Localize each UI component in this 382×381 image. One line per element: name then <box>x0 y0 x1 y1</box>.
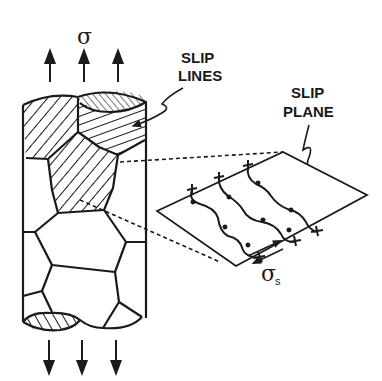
slip-plane-label-line1: SLIP <box>291 84 324 101</box>
tensile-arrows-bottom <box>49 340 116 368</box>
shear-stress-subscript: s <box>275 275 281 287</box>
slip-plane-label-line2: PLANE <box>283 103 334 120</box>
polycrystal-cylinder <box>23 91 146 330</box>
slip-diagram: σ <box>0 0 382 381</box>
shear-stress-label: σ s <box>261 261 281 287</box>
tensile-stress-label: σ <box>77 24 92 49</box>
diagram-canvas: σ <box>0 0 382 381</box>
tensile-arrows-top <box>50 56 118 82</box>
shear-stress-symbol: σ <box>261 261 276 286</box>
slip-lines-label-line2: LINES <box>178 67 222 84</box>
slip-lines-label: SLIP LINES <box>136 49 222 125</box>
slip-lines-label-line1: SLIP <box>181 49 214 66</box>
